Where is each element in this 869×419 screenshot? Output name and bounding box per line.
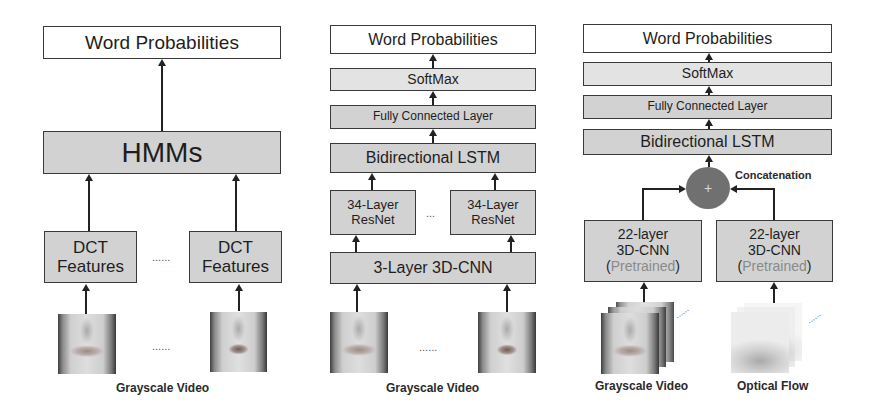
word-probabilities-box: Word Probabilities [330,25,536,54]
dct-label: DCT [73,238,108,257]
ellipsis: ...... [152,340,170,352]
arrowhead-icon [705,53,713,60]
concatenation-node: + [686,167,730,209]
word-probabilities-box: Word Probabilities [43,26,281,59]
arrowhead-icon [232,174,240,181]
resnet-depth-label: 34-Layer [467,198,518,213]
face-frame-image [601,313,659,374]
branch-left-horizontal [642,188,680,190]
arrowhead-icon [429,91,437,98]
softmax-label: SoftMax [682,66,733,82]
fully-connected-box: Fully Connected Layer [583,95,832,119]
fully-connected-box: Fully Connected Layer [330,105,536,129]
arrow-face-to-cnn-left [356,289,358,312]
arrowhead-icon [640,282,648,289]
fully-connected-label: Fully Connected Layer [373,110,493,123]
input-label-video: Grayscale Video [595,379,688,393]
concatenation-label: Concatenation [735,169,811,181]
face-frame-image [58,314,116,374]
dct-features-box-left: DCT Features [44,231,137,283]
arrowhead-icon [85,174,93,181]
hmm-label: HMMs [122,137,203,168]
dct-label: DCT [218,238,253,257]
ellipsis: ...... [152,251,170,263]
arrowhead-icon [705,86,713,93]
arrowhead-icon [503,284,511,291]
bidirectional-lstm-label: Bidirectional LSTM [640,133,774,151]
optical-flow-image [731,312,789,373]
input-label: Grayscale Video [116,381,209,395]
hmm-box: HMMs [43,131,281,174]
softmax-box: SoftMax [330,68,536,91]
arrow-dct-left-to-hmm [88,179,90,231]
bidirectional-lstm-label: Bidirectional LSTM [366,149,500,167]
dct-features-box-right: DCT Features [189,231,282,283]
pretrained-note: (Pretrained) [738,259,812,275]
resnet-depth-label: 34-Layer [347,198,398,213]
arrowhead-icon [158,59,166,66]
pretrained-note: (Pretrained) [606,259,680,275]
arrowhead-icon [235,284,243,291]
word-probabilities-label: Word Probabilities [85,32,239,53]
bidirectional-lstm-box: Bidirectional LSTM [330,143,536,173]
word-probabilities-box: Word Probabilities [583,24,832,53]
resnet-label: ResNet [351,213,394,228]
face-frame-image [330,312,388,373]
ellipsis: ...... [672,304,690,321]
branch-right-horizontal [737,188,775,190]
features-label: Features [57,257,124,276]
cnn-depth-label: 22-layer [618,227,669,243]
word-probabilities-label: Word Probabilities [368,31,498,49]
ellipsis: ...... [419,341,437,353]
plus-icon: + [704,180,712,196]
arrow-video-to-cnn [643,287,645,303]
arrowhead-icon [705,119,713,126]
branch-left-vertical [642,188,644,220]
arrowhead-icon [507,235,515,242]
resnet-label: ResNet [471,213,514,228]
branch-right-vertical [773,188,775,220]
pretrained-3d-cnn-box-video: 22-layer 3D-CNN (Pretrained) [584,220,702,282]
input-label-flow: Optical Flow [737,379,808,393]
arrowhead-icon [770,282,778,289]
arrow-face-to-dct-right [238,289,240,311]
resnet-box-right: 34-Layer ResNet [450,190,536,235]
face-frame-image [478,312,536,373]
face-frame-image [210,312,267,372]
bidirectional-lstm-box: Bidirectional LSTM [583,129,832,155]
arrow-face-to-cnn-right [506,289,508,312]
input-label: Grayscale Video [386,381,479,395]
3d-cnn-label: 3-Layer 3D-CNN [373,259,492,277]
pretrained-3d-cnn-box-flow: 22-layer 3D-CNN (Pretrained) [716,220,833,282]
cnn-label: 3D-CNN [617,243,670,259]
arrow-hmm-to-output [161,64,163,131]
features-label: Features [202,257,269,276]
softmax-label: SoftMax [407,72,458,88]
arrowhead-icon [429,129,437,136]
arrow-flow-to-cnn [773,287,775,303]
arrow-face-to-dct-left [85,289,87,314]
arrow-dct-right-to-hmm [235,179,237,231]
arrowhead-icon [679,185,686,193]
arrowhead-icon [82,284,90,291]
ellipsis: ... [426,207,435,219]
arrowhead-icon [353,284,361,291]
arrowhead-icon [730,185,737,193]
arrowhead-icon [368,173,376,180]
cnn-depth-label: 22-layer [749,227,800,243]
arrowhead-icon [429,54,437,61]
softmax-box: SoftMax [583,62,832,86]
arrowhead-icon [705,155,713,162]
cnn-label: 3D-CNN [748,243,801,259]
arrowhead-icon [491,173,499,180]
arrowhead-icon [352,235,360,242]
3d-cnn-box: 3-Layer 3D-CNN [330,252,536,284]
resnet-box-left: 34-Layer ResNet [330,190,416,235]
word-probabilities-label: Word Probabilities [643,30,773,48]
fully-connected-label: Fully Connected Layer [647,100,767,113]
ellipsis: ...... [804,309,822,326]
